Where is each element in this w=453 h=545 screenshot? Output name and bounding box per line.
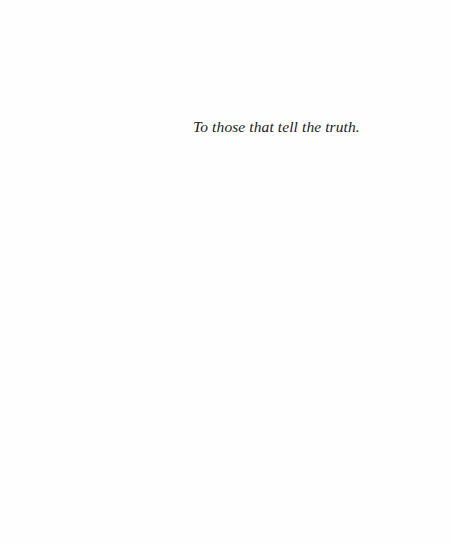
document-page: To those that tell the truth. xyxy=(0,0,453,545)
dedication-text: To those that tell the truth. xyxy=(193,118,360,136)
